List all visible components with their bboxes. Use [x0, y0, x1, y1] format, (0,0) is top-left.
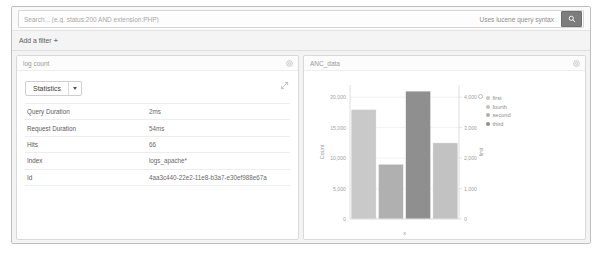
y2-axis-tick-label: 4,000: [464, 94, 477, 100]
lucene-syntax-hint: Uses lucene query syntax: [476, 16, 561, 23]
chart-legend: firstfourthsecondthird: [486, 94, 511, 128]
kibana-dashboard: Uses lucene query syntax Add a filter + …: [11, 6, 591, 244]
legend-item[interactable]: first: [486, 94, 511, 103]
legend-swatch-icon: [486, 122, 490, 126]
stat-value: 66: [147, 136, 290, 152]
panel-log-count: log count Statistics: [16, 55, 299, 240]
gear-icon[interactable]: [573, 60, 580, 67]
legend-label: second: [493, 112, 511, 118]
legend-item[interactable]: third: [486, 120, 511, 129]
expand-icon[interactable]: [280, 81, 289, 90]
y2-axis-tick-label: 3,000: [464, 125, 477, 131]
panel-header-log-count: log count: [17, 56, 298, 71]
y2-axis-label: first: [478, 147, 484, 156]
legend-swatch-icon: [486, 113, 490, 117]
legend-swatch-icon: [486, 105, 490, 109]
legend-item[interactable]: second: [486, 111, 511, 120]
statistics-select[interactable]: Statistics: [25, 81, 82, 96]
y-axis-tick-label: 20,000: [330, 94, 346, 100]
table-row: Id4aa3c440-22e2-11e8-b3a7-e30ef988e67a: [25, 169, 290, 185]
stat-value: 2ms: [147, 104, 290, 120]
y2-axis-tick-label: 1,000: [464, 186, 477, 192]
y-axis-tick-label: 0: [343, 216, 346, 222]
legend-collapse-button[interactable]: [478, 94, 483, 99]
statistics-select-value: Statistics: [26, 82, 68, 95]
stat-value: logs_apache*: [147, 153, 290, 169]
chevron-down-icon[interactable]: [68, 82, 81, 95]
stat-key: Id: [25, 169, 147, 185]
statistics-table: Query Duration2msRequest Duration54msHit…: [25, 103, 290, 186]
y2-axis-tick-label: 0: [464, 216, 467, 222]
y-axis-tick-label: 5,000: [333, 186, 346, 192]
table-row: Query Duration2ms: [25, 104, 290, 120]
add-filter-button[interactable]: Add a filter +: [19, 37, 58, 45]
query-bar: Uses lucene query syntax: [12, 7, 590, 31]
search-icon: [568, 15, 576, 23]
bar[interactable]: [433, 143, 458, 219]
legend-label: third: [493, 121, 504, 127]
panel-title-anc-data: ANC_data: [310, 60, 340, 67]
stat-value: 4aa3c440-22e2-11e8-b3a7-e30ef988e67a: [147, 169, 290, 185]
panel-anc-data: ANC_data 05,00010,00015,00020,00001,0002…: [303, 55, 586, 240]
y-axis-label: Count: [319, 144, 325, 159]
bar[interactable]: [351, 109, 376, 219]
bar[interactable]: [378, 164, 403, 219]
stat-key: Request Duration: [25, 120, 147, 136]
stat-value: 54ms: [147, 120, 290, 136]
bar-chart: 05,00010,00015,00020,00001,0002,0003,000…: [304, 71, 585, 240]
bar[interactable]: [406, 91, 431, 219]
y-axis-tick-label: 15,000: [330, 125, 346, 131]
table-row: Hits66: [25, 136, 290, 152]
panel-title-log-count: log count: [23, 60, 49, 67]
stat-key: Index: [25, 153, 147, 169]
legend-label: fourth: [493, 104, 507, 110]
stat-key: Hits: [25, 136, 147, 152]
y-axis-tick-label: 10,000: [330, 155, 346, 161]
x-axis-label: x: [403, 230, 406, 236]
add-filter-label: Add a filter: [19, 37, 52, 44]
table-row: Indexlogs_apache*: [25, 153, 290, 169]
filter-bar: Add a filter +: [12, 31, 590, 51]
table-row: Request Duration54ms: [25, 120, 290, 136]
legend-item[interactable]: fourth: [486, 103, 511, 112]
search-bar: Uses lucene query syntax: [18, 10, 584, 28]
chart-canvas: 05,00010,00015,00020,00001,0002,0003,000…: [304, 71, 586, 240]
plus-icon: +: [54, 37, 59, 45]
panel-header-anc-data: ANC_data: [304, 56, 585, 71]
y2-axis-tick-label: 2,000: [464, 155, 477, 161]
stat-key: Query Duration: [25, 104, 147, 120]
search-submit-button[interactable]: [561, 11, 582, 27]
dashboard-panels: log count Statistics: [12, 51, 590, 244]
legend-swatch-icon: [486, 96, 490, 100]
legend-label: first: [493, 95, 502, 101]
search-input[interactable]: [19, 11, 476, 27]
panel-body-log-count: Statistics Query Duration2msRequest Dura…: [17, 71, 298, 186]
gear-icon[interactable]: [286, 60, 293, 67]
